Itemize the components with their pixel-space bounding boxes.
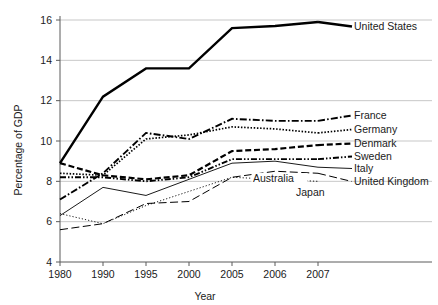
y-tick-label: 10 [40, 135, 52, 147]
y-tick-label: 16 [40, 14, 52, 26]
x-tick-label: 1980 [48, 268, 72, 280]
series-label: Denmark [354, 137, 397, 149]
y-tick-label: 14 [40, 54, 52, 66]
label-leader-line [318, 167, 352, 168]
x-axis-ticks: 1980199019952000200520062007 [48, 262, 330, 280]
series-label: Sweden [354, 150, 392, 162]
y-tick-label: 4 [46, 256, 52, 268]
x-tick-label: 2000 [177, 268, 201, 280]
series-labels: United StatesFranceGermanyDenmarkSwedenI… [354, 20, 429, 187]
series-label: Italy [354, 162, 374, 174]
label-leader-line [318, 144, 352, 146]
label-leader-line [318, 157, 352, 160]
series-line [60, 119, 318, 200]
label-leader-line [318, 116, 352, 121]
label-leader-lines [318, 22, 352, 181]
x-tick-label: 2007 [306, 268, 330, 280]
series-line [60, 161, 318, 215]
series-lines [60, 22, 318, 230]
series-line [60, 127, 318, 175]
label-leader-line [318, 173, 352, 181]
y-tick-label: 12 [40, 94, 52, 106]
label-leader-line [318, 22, 352, 26]
inline-series-labels: AustraliaJapan [252, 172, 328, 199]
x-axis-title: Year [194, 290, 216, 302]
x-tick-label: 2006 [263, 268, 287, 280]
x-tick-label: 1995 [134, 268, 158, 280]
chart-container: 46810121416 1980199019952000200520062007… [0, 0, 438, 305]
series-label: United Kingdom [354, 175, 429, 187]
y-tick-label: 8 [46, 175, 52, 187]
series-label: Germany [354, 123, 398, 135]
x-tick-label: 2005 [220, 268, 244, 280]
y-tick-label: 6 [46, 215, 52, 227]
series-line [60, 22, 318, 163]
inline-series-label: Australia [253, 172, 294, 184]
series-label: France [354, 109, 387, 121]
inline-series-label: Japan [296, 186, 325, 198]
series-label: United States [354, 20, 417, 32]
x-tick-label: 1990 [91, 268, 115, 280]
label-leader-line [318, 130, 352, 133]
line-chart: 46810121416 1980199019952000200520062007… [0, 0, 438, 305]
y-axis-ticks: 46810121416 [40, 14, 60, 268]
y-axis-title: Percentage of GDP [12, 104, 24, 195]
